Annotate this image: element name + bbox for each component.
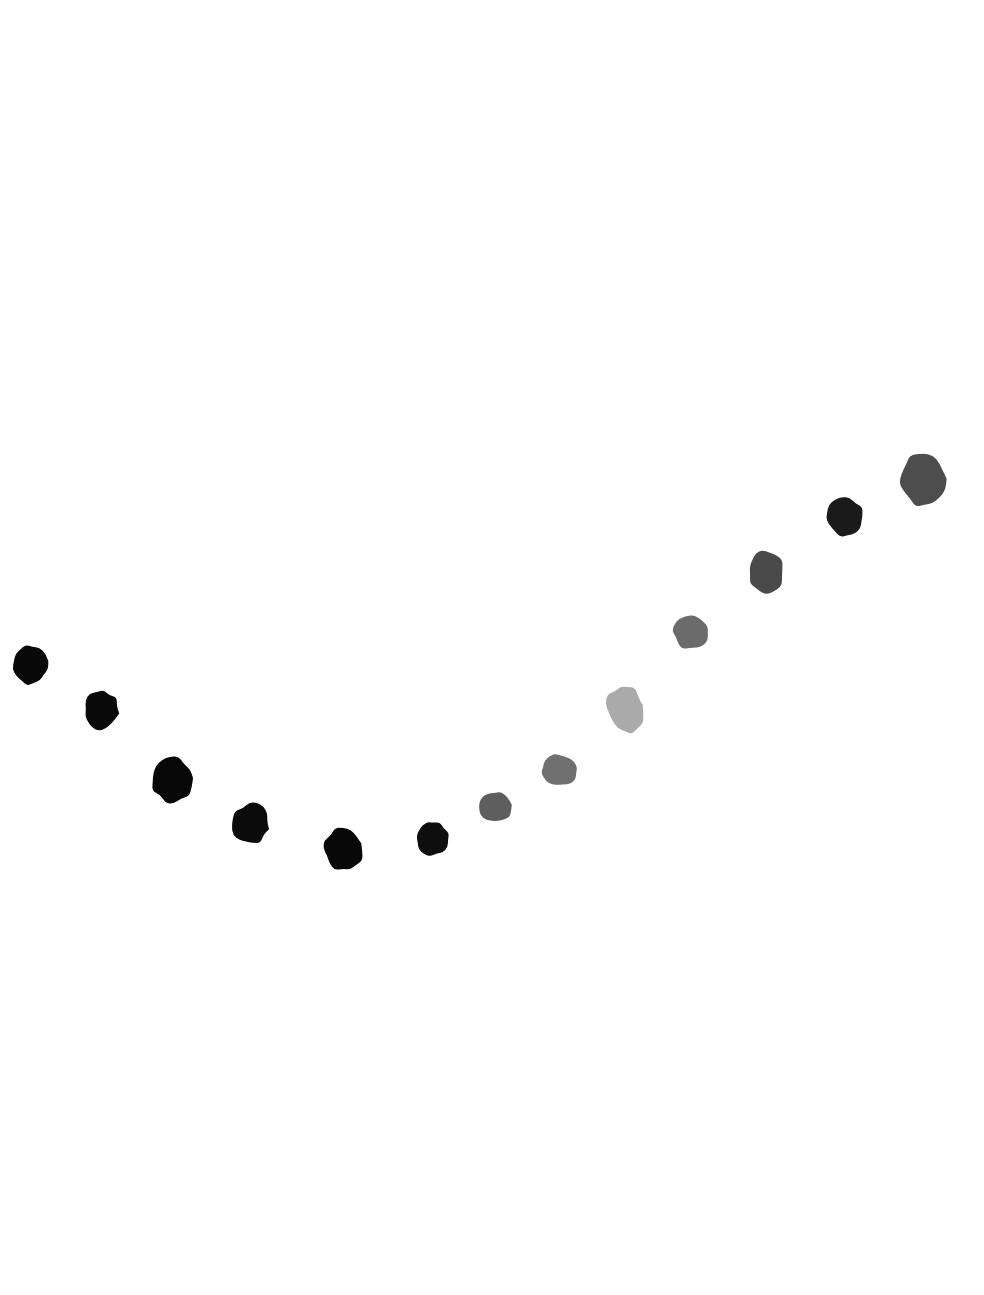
scatter-marker [149, 755, 195, 804]
scatter-marker [8, 641, 52, 690]
marker-blob-icon [744, 546, 789, 597]
marker-blob-icon [227, 799, 275, 850]
marker-shape [897, 451, 949, 507]
marker-blob-icon [80, 688, 121, 735]
plot-area [0, 0, 984, 1295]
marker-blob-icon [671, 613, 711, 652]
marker-shape [415, 820, 450, 857]
marker-shape [9, 642, 52, 688]
scatter-marker [317, 822, 370, 877]
marker-blob-icon [8, 641, 52, 690]
marker-blob-icon [896, 452, 947, 511]
marker-blob-icon [602, 680, 651, 738]
scatter-marker [80, 688, 121, 735]
marker-blob-icon [317, 822, 370, 877]
scatter-marker [821, 493, 869, 541]
marker-shape [603, 683, 649, 737]
scatter-marker [602, 680, 651, 738]
scatter-marker [537, 751, 580, 790]
marker-blob-icon [413, 818, 451, 857]
marker-blob-icon [477, 789, 515, 825]
marker-shape [228, 798, 275, 847]
marker-blob-icon [537, 751, 580, 790]
marker-shape [822, 494, 867, 541]
marker-shape [477, 791, 513, 823]
scatter-marker [671, 613, 711, 652]
scatter-marker [896, 452, 947, 511]
scatter-marker [227, 799, 275, 850]
marker-blob-icon [821, 493, 869, 541]
marker-shape [319, 822, 369, 875]
marker-shape [671, 614, 709, 650]
marker-shape [150, 755, 195, 805]
marker-shape [540, 752, 580, 788]
scatter-marker [477, 789, 515, 825]
scatter-marker [744, 546, 789, 597]
figure-canvas [0, 0, 984, 1295]
marker-shape [82, 689, 122, 733]
marker-shape [746, 548, 787, 596]
marker-blob-icon [149, 755, 195, 804]
scatter-marker [413, 818, 451, 857]
